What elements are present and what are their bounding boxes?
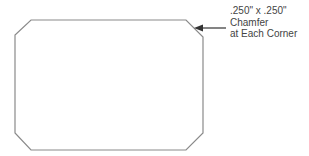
chamfer-word: Chamfer — [230, 17, 297, 29]
chamfer-callout-label: .250" x .250" Chamfer at Each Corner — [230, 5, 297, 40]
callout-arrow-icon — [194, 25, 226, 32]
chamfer-location: at Each Corner — [230, 28, 297, 40]
chamfered-rectangle-outline — [15, 20, 203, 150]
chamfer-dimension: .250" x .250" — [230, 5, 297, 17]
